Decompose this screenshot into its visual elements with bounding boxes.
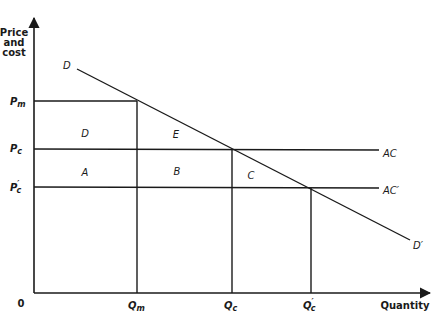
region-a-label: A: [81, 167, 89, 178]
pc-label: Pc: [10, 143, 22, 156]
x-axis-label: Quantity: [381, 300, 430, 311]
qc-label: Qc: [224, 300, 238, 313]
qc-prime-label: Q′c: [303, 298, 316, 313]
demand-curve: [77, 69, 410, 240]
demand-curve-label-end: D′: [413, 240, 424, 251]
origin-label: 0: [18, 298, 25, 309]
region-c-label: C: [248, 170, 255, 181]
ac-prime-line: [34, 187, 379, 188]
ac-prime-label: AC′: [382, 185, 400, 196]
ac-line: [34, 149, 379, 150]
region-b-label: B: [174, 166, 181, 177]
region-e-label: E: [173, 129, 180, 140]
qm-label: Qm: [128, 300, 145, 313]
y-axis-label-line-3: cost: [2, 47, 26, 58]
region-d-label: D: [81, 128, 89, 139]
pm-label: Pm: [10, 96, 26, 109]
pc-prime-label: P′c: [10, 180, 21, 195]
monopoly-cost-diagram: Price and cost Quantity 0 D D′ AC AC′ Pm…: [0, 0, 437, 313]
diagram-canvas: Price and cost Quantity 0 D D′ AC AC′ Pm…: [0, 0, 437, 313]
ac-label: AC: [382, 148, 397, 159]
demand-curve-label-start: D: [63, 60, 71, 71]
